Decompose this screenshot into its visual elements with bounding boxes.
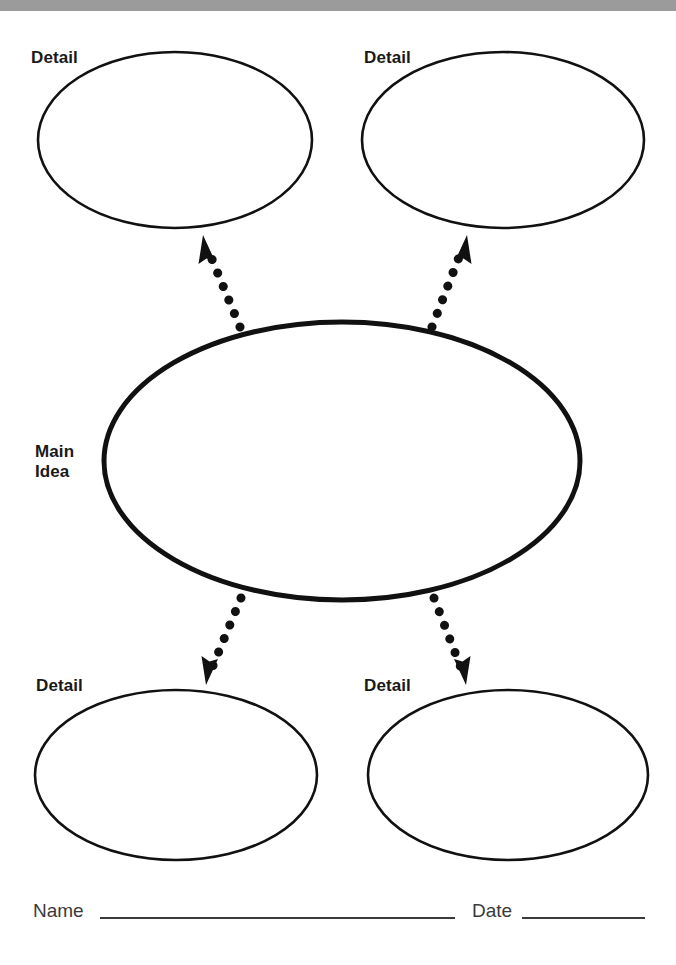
- detail-ellipse-top-left[interactable]: [38, 52, 312, 228]
- detail-ellipse-bottom-left[interactable]: [35, 690, 317, 860]
- connector-arrow-to-top-left: [199, 235, 241, 327]
- date-field-label: Date: [472, 900, 512, 922]
- graphic-organizer-canvas: [0, 0, 676, 965]
- detail-ellipse-bottom-right[interactable]: [368, 690, 648, 860]
- detail-ellipse-top-right[interactable]: [362, 52, 644, 228]
- connector-arrow-to-bottom-right: [434, 598, 471, 685]
- name-field-label: Name: [33, 900, 84, 922]
- worksheet-page: Detail Detail Main Idea Detail Detail Na…: [0, 0, 676, 965]
- label-detail-top-left: Detail: [31, 48, 78, 68]
- label-detail-bottom-left: Detail: [36, 676, 83, 696]
- label-detail-bottom-right: Detail: [364, 676, 411, 696]
- connector-arrow-to-bottom-left: [202, 598, 242, 685]
- main-idea-ellipse[interactable]: [104, 322, 580, 600]
- connector-arrow-to-top-right: [432, 235, 472, 327]
- label-detail-top-right: Detail: [364, 48, 411, 68]
- label-main-idea: Main Idea: [35, 442, 74, 482]
